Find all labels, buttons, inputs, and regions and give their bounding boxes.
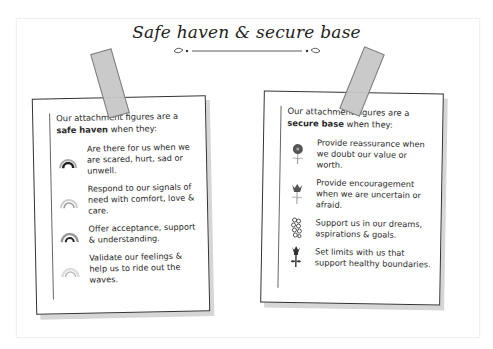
list-item: Support us in our dreams, aspirations & … — [285, 217, 432, 242]
divider-ornament — [172, 46, 322, 56]
flower-thistle-icon — [285, 246, 307, 268]
list-item: Set limits with us that support healthy … — [285, 246, 432, 271]
rainbow-pale-icon — [59, 258, 81, 280]
list-item: Are there for us when we are scared, hur… — [57, 141, 199, 177]
rainbow-medium-icon — [58, 224, 80, 246]
flower-cluster-icon — [285, 217, 307, 239]
safe-haven-card: Our attachment figures are a safe haven … — [32, 95, 210, 315]
secure-base-card: Our attachment figures are a secure base… — [260, 90, 444, 305]
list-item: Respond to our signals of need with comf… — [58, 181, 200, 217]
rainbow-dark-icon — [57, 149, 79, 171]
page-title: Safe haven & secure base — [0, 22, 493, 42]
flower-round-icon — [287, 142, 309, 164]
list-item: Provide reassurance when we doubt our va… — [286, 137, 434, 173]
safe-haven-intro: Our attachment figures are a safe haven … — [56, 110, 197, 136]
list-item: Offer acceptance, support & understandin… — [58, 221, 199, 246]
rainbow-light-icon — [58, 189, 80, 211]
list-item: Validate our feelings & help us to ride … — [59, 250, 201, 286]
list-item: Provide encouragement when we are uncert… — [286, 177, 434, 213]
flower-tulip-icon — [286, 182, 308, 204]
